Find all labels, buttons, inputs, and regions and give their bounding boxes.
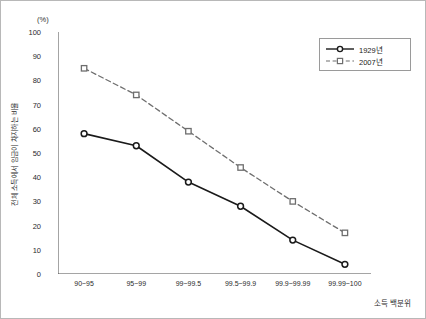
legend-label-2007: 2007년 <box>359 56 383 67</box>
x-axis-tick-label: 99.5~99.9 <box>225 280 256 287</box>
x-axis-tick-labels: 90~9595~9999~99.599.5~99.999.9~99.9999.9… <box>58 280 371 294</box>
x-axis-tick-label: 95~99 <box>126 280 146 287</box>
y-axis-tick-label: 100 <box>28 28 41 37</box>
y-axis-title: 전체 소득에서 임금이 차지하는 비율 <box>9 79 19 229</box>
legend-item-1929: 1929년 <box>325 43 405 55</box>
chart-legend: 1929년 2007년 <box>319 38 411 71</box>
x-axis-title: 소득 백분위 <box>1 297 411 308</box>
x-axis-tick-label: 90~95 <box>74 280 94 287</box>
legend-label-1929: 1929년 <box>359 44 383 55</box>
y-axis-tick-label: 10 <box>33 245 41 254</box>
legend-item-2007: 2007년 <box>325 55 405 67</box>
y-axis-tick-label: 30 <box>33 197 41 206</box>
y-axis-tick-label: 40 <box>33 173 41 182</box>
y-axis-tick-label: 0 <box>37 270 41 279</box>
y-axis-tick-label: 50 <box>33 149 41 158</box>
y-axis-tick-label: 60 <box>33 124 41 133</box>
y-axis-tick-label: 20 <box>33 221 41 230</box>
x-axis-tick-label: 99.99~100 <box>328 280 361 287</box>
y-axis-tick-label: 70 <box>33 100 41 109</box>
chart-figure: (%) 0102030405060708090100 90~9595~9999~… <box>0 0 426 319</box>
y-axis-tick-label: 90 <box>33 52 41 61</box>
legend-marker-square-icon <box>325 56 355 66</box>
x-axis-tick-label: 99~99.5 <box>176 280 202 287</box>
x-axis-tick-label: 99.9~99.99 <box>275 280 310 287</box>
legend-marker-circle-icon <box>325 44 355 54</box>
y-axis-tick-label: 80 <box>33 76 41 85</box>
y-axis-unit-label: (%) <box>37 15 49 24</box>
